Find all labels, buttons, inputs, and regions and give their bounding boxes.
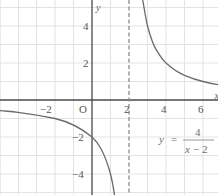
y-tick-minus-4: −4 <box>72 168 84 180</box>
equation-numerator: 4 <box>195 126 201 138</box>
x-tick-minus-2: −2 <box>40 103 52 115</box>
function-graph: y x O −2 2 4 6 4 2 −2 −4 y = 4 x − 2 <box>0 0 218 195</box>
y-tick-2: 2 <box>83 57 89 69</box>
origin-label: O <box>79 103 87 115</box>
equation-denominator-rest: − 2 <box>193 143 207 155</box>
y-tick-4: 4 <box>83 20 89 32</box>
y-axis-label: y <box>95 2 101 13</box>
x-axis-label: x <box>214 90 219 101</box>
grid <box>0 0 218 195</box>
y-tick-minus-2: −2 <box>72 131 84 143</box>
x-tick-6: 6 <box>198 103 204 115</box>
curve-left-branch <box>0 111 115 195</box>
x-tick-4: 4 <box>161 103 167 115</box>
equation-denominator-x: x <box>184 143 190 155</box>
equation-lhs: y <box>158 133 164 145</box>
equation-equals: = <box>171 133 177 145</box>
curve-right-branch <box>143 0 218 85</box>
x-tick-2: 2 <box>124 103 130 115</box>
